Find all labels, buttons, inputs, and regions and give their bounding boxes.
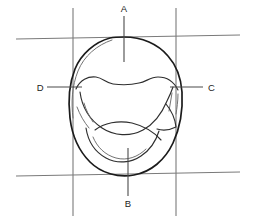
label-b: B bbox=[125, 198, 132, 209]
diagram-labels: A B C D bbox=[37, 3, 215, 209]
left-groove-secondary-path bbox=[77, 107, 89, 128]
label-d: D bbox=[37, 82, 44, 93]
diagram-canvas: A B C D bbox=[0, 0, 255, 223]
right-lobe-path bbox=[157, 104, 176, 130]
left-groove-path bbox=[84, 103, 93, 122]
upper-ridge-path bbox=[76, 77, 178, 90]
leader-lines bbox=[47, 16, 203, 196]
label-c: C bbox=[208, 82, 215, 93]
central-fossa-path bbox=[80, 87, 173, 135]
shape-outline bbox=[69, 37, 182, 176]
label-a: A bbox=[121, 3, 128, 14]
outer-contour-echo bbox=[72, 40, 112, 118]
inner-features bbox=[76, 77, 178, 162]
diagram-illustration: A B C D bbox=[0, 0, 255, 223]
lower-ridge-echo-path bbox=[93, 137, 146, 159]
